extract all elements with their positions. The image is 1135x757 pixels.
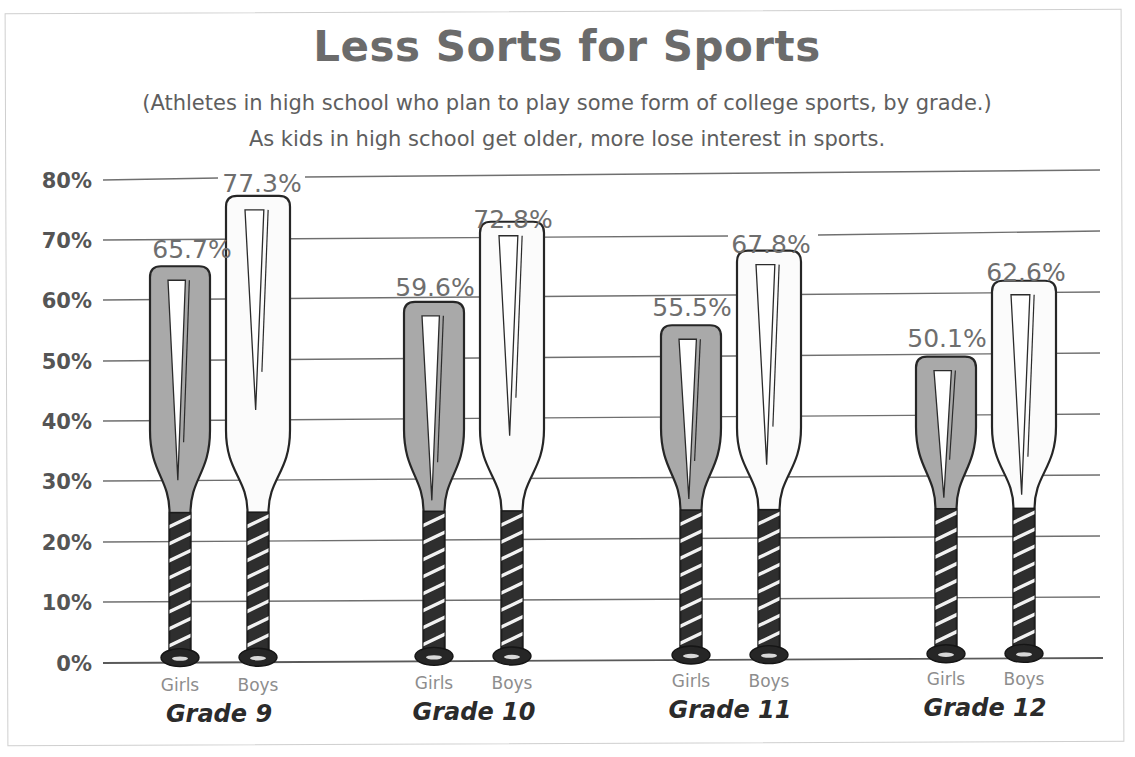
series-label-grade11-girls: Girls xyxy=(672,671,711,691)
chart-subtitle-1: (Athletes in high school who plan to pla… xyxy=(142,91,991,115)
y-tick-30: 30% xyxy=(42,470,92,494)
chart-plot-area: Less Sorts for Sports (Athletes in high … xyxy=(0,0,1135,757)
gridline-80-right xyxy=(305,170,1100,177)
x-axis-labels: Girls Boys Grade 9 Girls Boys Grade 10 G… xyxy=(161,669,1047,728)
value-label-grade10-girls: 59.6% xyxy=(395,273,474,302)
bar-bat-grade9-girls xyxy=(150,266,210,666)
category-label-grade9: Grade 9 xyxy=(166,700,272,728)
series-label-grade9-boys: Boys xyxy=(238,675,279,695)
y-tick-50: 50% xyxy=(42,350,92,374)
chart-subtitle-2: As kids in high school get older, more l… xyxy=(249,127,885,151)
value-label-grade11-boys: 67.8% xyxy=(731,230,810,259)
gridline-80-left xyxy=(103,178,218,180)
bar-bat-grade11-girls xyxy=(661,325,721,664)
value-label-grade11-girls: 55.5% xyxy=(652,293,731,322)
value-label-grade12-girls: 50.1% xyxy=(907,324,986,353)
value-label-grade9-boys: 77.3% xyxy=(222,169,301,198)
y-tick-20: 20% xyxy=(42,531,92,555)
bar-bat-grade10-girls xyxy=(404,302,464,666)
value-label-grade12-boys: 62.6% xyxy=(986,258,1065,287)
category-label-grade11: Grade 11 xyxy=(669,696,792,724)
bat-knob-highlight xyxy=(426,655,442,659)
y-tick-70: 70% xyxy=(42,229,92,253)
y-axis-labels: 80% 70% 60% 50% 40% 30% 20% 10% 0% xyxy=(42,169,92,676)
chart-container: Less Sorts for Sports (Athletes in high … xyxy=(0,0,1135,757)
bat-knob-highlight xyxy=(683,654,699,658)
bat-knob-highlight xyxy=(250,656,266,660)
y-tick-60: 60% xyxy=(42,289,92,313)
value-label-grade10-boys: 72.8% xyxy=(473,205,552,234)
bar-bat-grade10-boys xyxy=(480,222,544,665)
series-label-grade10-boys: Boys xyxy=(492,673,533,693)
series-label-grade12-girls: Girls xyxy=(927,669,966,689)
bat-knob-highlight xyxy=(504,655,520,659)
bar-bat-grade11-boys xyxy=(737,251,801,664)
category-label-grade12: Grade 12 xyxy=(924,694,1047,722)
series-label-grade9-girls: Girls xyxy=(161,675,200,695)
series-label-grade11-boys: Boys xyxy=(749,671,790,691)
series-label-grade10-girls: Girls xyxy=(415,673,454,693)
bar-bat-grade12-boys xyxy=(992,281,1056,663)
category-label-grade10: Grade 10 xyxy=(413,698,536,726)
bar-series-group xyxy=(150,196,1056,667)
series-label-grade12-boys: Boys xyxy=(1004,669,1045,689)
gridline-70-right xyxy=(818,231,1100,235)
y-tick-10: 10% xyxy=(42,591,92,615)
bar-bat-grade9-boys xyxy=(226,196,290,666)
y-tick-40: 40% xyxy=(42,410,92,434)
bat-knob-highlight xyxy=(938,653,954,657)
bat-knob-highlight xyxy=(1016,652,1032,656)
y-tick-0: 0% xyxy=(56,652,92,676)
chart-title: Less Sorts for Sports xyxy=(313,22,820,71)
y-tick-80: 80% xyxy=(42,169,92,193)
value-label-grade9-girls: 65.7% xyxy=(152,235,231,264)
bat-knob-highlight xyxy=(172,656,188,660)
bar-bat-grade12-girls xyxy=(916,357,976,663)
bat-knob-highlight xyxy=(761,653,777,657)
